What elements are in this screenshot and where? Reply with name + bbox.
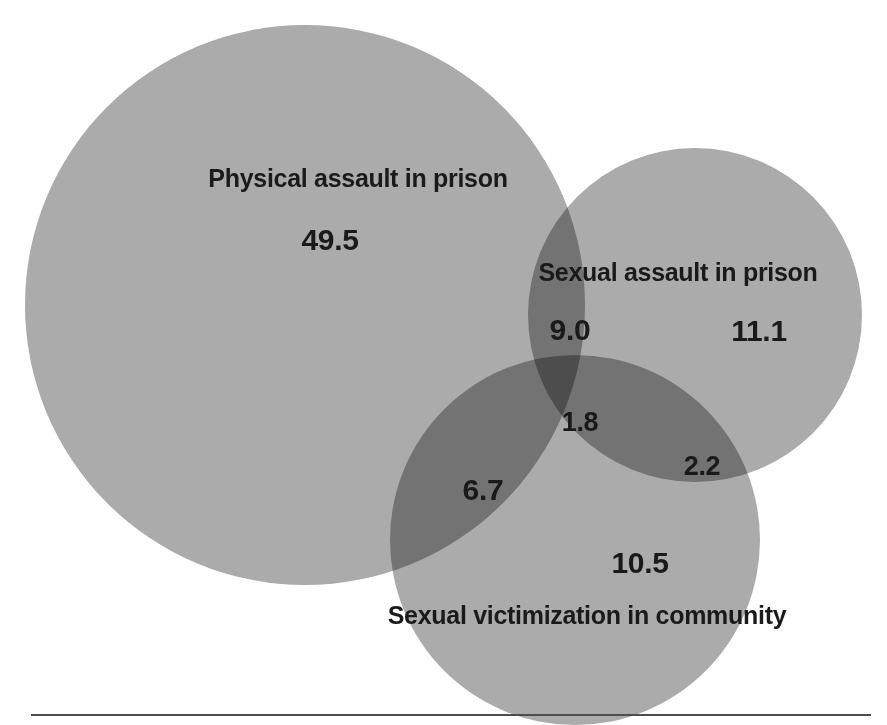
venn-circles-canvas — [0, 0, 887, 725]
footer-divider-rule — [31, 714, 871, 716]
venn-diagram-figure: Physical assault in prison 49.5 Sexual a… — [0, 0, 887, 725]
venn-circle-group — [25, 25, 862, 725]
circle-sexual-victimization-in-community[interactable] — [390, 355, 760, 725]
